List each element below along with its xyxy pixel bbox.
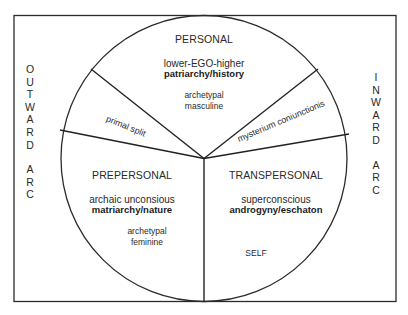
inward-arc-label: I N W A R D A R C — [369, 71, 383, 196]
letter: U — [23, 76, 37, 89]
outward-arc-label: O U T W A R D A R C — [23, 63, 37, 201]
letter: R — [369, 171, 383, 184]
divider-lower-right — [204, 134, 349, 159]
divider-lower-left — [60, 130, 204, 159]
letter: D — [369, 134, 383, 147]
diagram-canvas — [0, 0, 408, 315]
personal-note1: archetypal — [164, 90, 244, 100]
letter: N — [369, 84, 383, 97]
letter: T — [23, 88, 37, 101]
letter: D — [23, 139, 37, 152]
letter: R — [23, 176, 37, 189]
prepersonal-line2: matriarchy/nature — [72, 205, 192, 216]
letter: W — [369, 96, 383, 109]
letter: O — [23, 63, 37, 76]
personal-title: PERSONAL — [154, 33, 254, 45]
personal-line2: patriarchy/history — [144, 69, 264, 80]
letter: I — [369, 71, 383, 84]
letter: R — [369, 121, 383, 134]
transpersonal-title: TRANSPERSONAL — [221, 169, 331, 181]
letter: A — [23, 163, 37, 176]
letter: C — [369, 184, 383, 197]
transpersonal-line2: androgyny/eschaton — [216, 205, 336, 216]
personal-note2: masculine — [164, 101, 244, 111]
letter: C — [23, 188, 37, 201]
letter: A — [369, 109, 383, 122]
letter: W — [23, 101, 37, 114]
letter: A — [369, 159, 383, 172]
transpersonal-note1: SELF — [231, 248, 281, 258]
prepersonal-note1: archetypal — [107, 226, 187, 236]
prepersonal-title: PREPERSONAL — [82, 169, 182, 181]
letter: R — [23, 126, 37, 139]
prepersonal-note2: feminine — [107, 237, 187, 247]
letter: A — [23, 113, 37, 126]
